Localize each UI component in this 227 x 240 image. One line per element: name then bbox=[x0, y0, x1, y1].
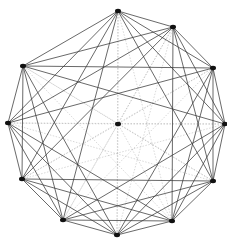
edge-n2-n5 bbox=[172, 68, 213, 221]
node-n4 bbox=[210, 179, 216, 183]
node-n1 bbox=[170, 25, 176, 29]
edge-n8-n10 bbox=[22, 66, 23, 179]
node-n2 bbox=[210, 66, 216, 70]
edge-n8-c bbox=[22, 124, 118, 179]
edge-n1-n10 bbox=[23, 27, 173, 66]
edge-n2-n3 bbox=[213, 68, 225, 124]
edge-n3-n5 bbox=[172, 124, 225, 221]
edge-n1-n3 bbox=[173, 27, 225, 124]
edge-n0-n7 bbox=[63, 11, 118, 220]
edge-n4-n6 bbox=[117, 181, 213, 235]
edge-n1-n9 bbox=[8, 27, 173, 123]
edge-n6-n8 bbox=[22, 179, 117, 235]
node-n6 bbox=[114, 233, 120, 237]
edge-n5-n9 bbox=[8, 123, 172, 221]
node-n7 bbox=[60, 218, 66, 222]
node-n9 bbox=[5, 121, 11, 125]
node-n5 bbox=[169, 219, 175, 223]
edge-n0-n1 bbox=[118, 11, 173, 27]
node-n0 bbox=[115, 9, 121, 13]
edge-n0-n8 bbox=[22, 11, 118, 179]
edge-n0-n2 bbox=[118, 11, 213, 68]
node-n10 bbox=[20, 64, 26, 68]
edge-n3-n10 bbox=[23, 66, 225, 124]
edge-n1-n4 bbox=[173, 27, 213, 181]
edge-n4-n9 bbox=[8, 123, 213, 181]
edge-n6-n7 bbox=[63, 220, 117, 235]
complete-graph-diagram bbox=[0, 0, 227, 240]
edge-n5-n7 bbox=[63, 220, 172, 221]
edge-n0-n10 bbox=[23, 11, 118, 66]
edge-n1-c bbox=[118, 27, 173, 124]
edge-n2-n9 bbox=[8, 68, 213, 123]
node-c bbox=[115, 122, 121, 126]
edge-n9-n10 bbox=[8, 66, 23, 123]
edge-n7-n10 bbox=[23, 66, 63, 220]
edge-n3-n7 bbox=[63, 124, 225, 220]
node-n8 bbox=[19, 177, 25, 181]
edge-n8-n9 bbox=[8, 123, 22, 179]
edge-n3-n4 bbox=[213, 124, 225, 181]
edge-n5-n6 bbox=[117, 221, 172, 235]
edge-n0-n5 bbox=[118, 11, 172, 221]
